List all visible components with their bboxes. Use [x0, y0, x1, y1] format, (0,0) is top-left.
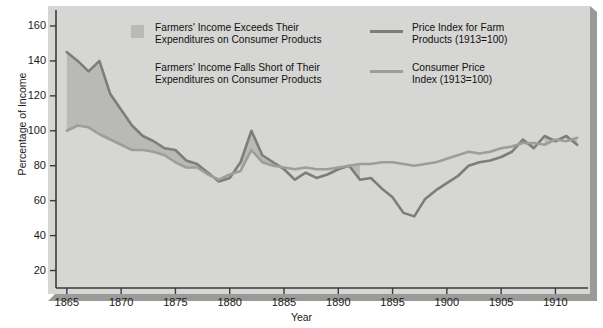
legend-label-line2: Index (1913=100)	[412, 74, 492, 86]
legend-item: Farmers' Income Exceeds TheirExpenditure…	[155, 22, 321, 47]
legend-label-line1: Price Index for Farm	[412, 22, 507, 34]
legend-label-line2: Products (1913=100)	[412, 34, 507, 46]
legend-label-line1: Farmers' Income Exceeds Their	[155, 22, 321, 34]
legend-item: Farmers' Income Falls Short of TheirExpe…	[155, 62, 321, 87]
legend-swatch-income-exceeds	[131, 25, 144, 38]
plot-canvas	[0, 0, 603, 328]
legend-line-consumer-price	[370, 70, 403, 73]
series-line-consumer-price	[67, 126, 577, 180]
legend-item: Consumer PriceIndex (1913=100)	[412, 62, 492, 87]
legend-label-line2: Expenditures on Consumer Products	[155, 74, 321, 86]
x-axis-title: Year	[0, 311, 603, 323]
legend-label-line1: Farmers' Income Falls Short of Their	[155, 62, 321, 74]
legend-item: Price Index for FarmProducts (1913=100)	[412, 22, 507, 47]
legend-label-line2: Expenditures on Consumer Products	[155, 34, 321, 46]
series-line-farm-products	[67, 52, 577, 216]
legend-label-line1: Consumer Price	[412, 62, 492, 74]
legend-line-farm-products	[370, 30, 403, 33]
chart-root: Percentage of Income 2040608010012014016…	[0, 0, 603, 328]
